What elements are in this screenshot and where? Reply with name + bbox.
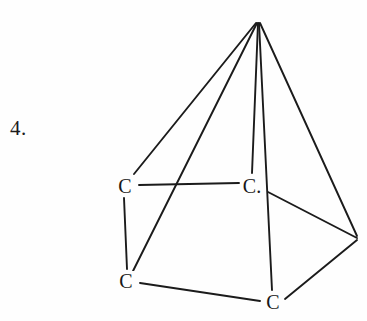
molecule-skeleton-diagram <box>0 0 367 321</box>
bond-line <box>252 23 258 173</box>
atom-label-upper-left: C <box>116 176 133 196</box>
atom-label-bottom-left: C <box>117 271 134 291</box>
bond-line <box>139 183 239 185</box>
bond-line <box>259 23 272 290</box>
bond-line <box>260 23 357 236</box>
bond-line <box>285 240 357 299</box>
bond-line <box>268 192 357 238</box>
bond-line <box>124 198 127 269</box>
bond-group <box>124 23 357 301</box>
figure-page: 4. CC.CC <box>0 0 367 321</box>
atom-label-upper-middle: C. <box>241 176 263 196</box>
atom-label-bottom-right: C <box>264 292 281 312</box>
bond-line <box>133 23 257 271</box>
bond-line <box>134 23 256 174</box>
bond-line <box>140 283 260 301</box>
